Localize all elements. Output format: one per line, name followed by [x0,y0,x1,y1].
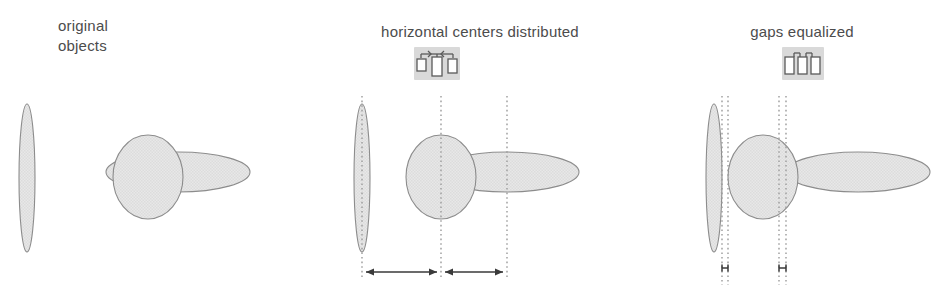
figure-canvas: original objects horizontal centers dist… [0,0,947,295]
shapes-original [0,0,300,295]
panel-original-objects: original objects [0,0,300,295]
shape-circle-ellipse [113,135,183,219]
shapes-and-guides-gaps [660,0,947,295]
spacing-measure-arrow [445,269,503,276]
panel-horizontal-centers-distributed: horizontal centers distributed [300,0,660,295]
shape-tall-narrow-ellipse [19,104,35,252]
spacing-measure-arrows [366,269,503,276]
gap-measure-arrow [722,265,728,272]
shape-tall-narrow-ellipse [706,104,722,252]
gap-measure-arrow [779,265,786,272]
shape-circle-ellipse [728,135,798,219]
panel-gaps-equalized: gaps equalized [660,0,947,295]
spacing-measure-arrow [366,269,437,276]
shape-wide-flat-ellipse [786,152,930,192]
gap-measure-arrows [722,265,786,272]
shapes-and-guides-centers [300,0,660,295]
